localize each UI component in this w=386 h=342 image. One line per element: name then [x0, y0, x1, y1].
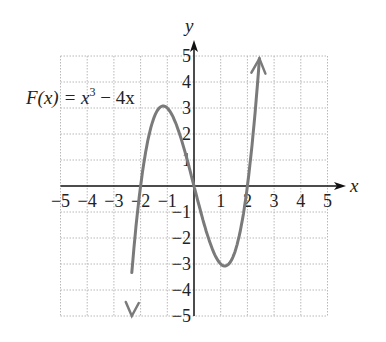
x-tick-label: −5: [51, 191, 70, 211]
x-tick-label: −4: [78, 191, 97, 211]
axes: [61, 40, 347, 316]
x-tick-labels: −5−4−3−2−112345: [51, 191, 332, 211]
x-tick-label: 5: [323, 191, 332, 211]
y-tick-label: 5: [182, 46, 191, 66]
y-axis-label: y: [183, 15, 194, 36]
x-axis-label: x: [349, 175, 359, 196]
function-label-rhs: − 4x: [95, 87, 135, 108]
function-plot: −5−4−3−2−112345 54321−1−2−3−4−5 x y F(x)…: [0, 0, 386, 342]
function-label: F(x) = x3 − 4x: [25, 85, 135, 109]
y-tick-label: 3: [182, 98, 191, 118]
y-tick-label: −2: [172, 228, 191, 248]
y-tick-label: −1: [172, 202, 191, 222]
x-tick-label: 3: [270, 191, 279, 211]
y-tick-label: 4: [182, 72, 191, 92]
y-tick-label: −5: [172, 306, 191, 326]
function-label-lhs: F(x) = x: [25, 87, 90, 109]
curve-arrow-down-icon: [126, 302, 139, 316]
function-curve: [132, 58, 260, 272]
y-tick-label: −4: [172, 280, 191, 300]
y-tick-label: −3: [172, 254, 191, 274]
x-tick-label: 4: [296, 191, 305, 211]
x-tick-label: 1: [216, 191, 225, 211]
x-tick-label: −3: [104, 191, 123, 211]
